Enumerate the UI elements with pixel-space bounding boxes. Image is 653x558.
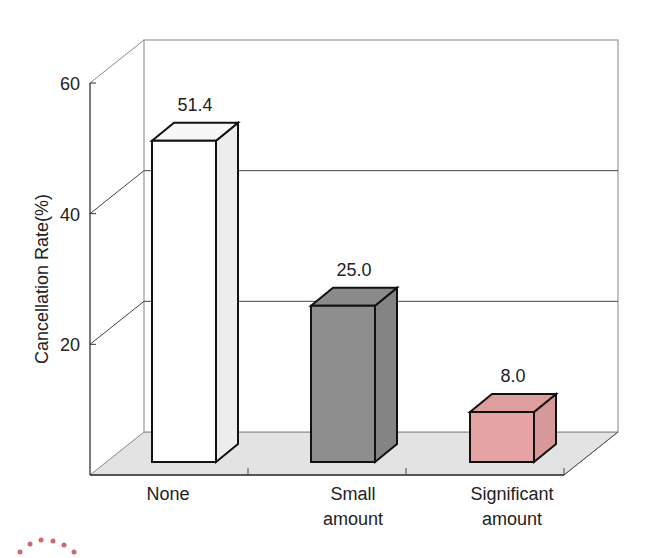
decor-dot [39, 538, 44, 543]
y-axis-label: Cancellation Rate(%) [32, 194, 52, 364]
decor-dot [72, 550, 77, 555]
decor-dot [28, 542, 33, 547]
side-wall-edge [90, 40, 144, 83]
bar-none: 51.4 [152, 95, 238, 462]
value-label: 8.0 [500, 366, 525, 386]
x-category-label: None [146, 484, 189, 504]
gridline-side [90, 301, 144, 344]
x-category-label: amount [323, 509, 383, 529]
value-label: 25.0 [336, 260, 371, 280]
y-tick-label: 60 [60, 74, 80, 94]
bar-chart-3d: 204060 51.4None25.0Smallamount8.0Signifi… [0, 0, 653, 558]
x-category-label: Small [330, 484, 375, 504]
decor-dot [18, 550, 23, 555]
gridline-side [90, 171, 144, 214]
decor-dot [62, 543, 67, 548]
decor-dot [51, 539, 56, 544]
y-tick-label: 20 [60, 335, 80, 355]
decorative-dots [18, 538, 77, 555]
x-category-label: Significant [470, 484, 553, 504]
x-category-label: amount [482, 509, 542, 529]
y-tick-label: 40 [60, 205, 80, 225]
value-label: 51.4 [177, 95, 212, 115]
